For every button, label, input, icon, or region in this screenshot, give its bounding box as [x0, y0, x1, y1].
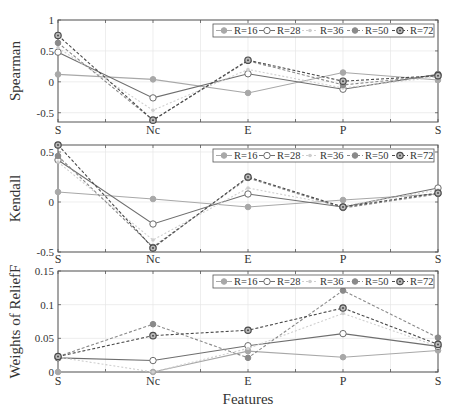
data-point — [221, 28, 227, 34]
legend-label: R=16 — [234, 150, 257, 161]
data-point — [55, 153, 61, 159]
data-point — [151, 370, 155, 374]
data-point — [221, 153, 227, 159]
data-point — [246, 186, 250, 190]
data-point — [340, 354, 346, 360]
x-tick-label: S — [435, 374, 442, 388]
data-point — [308, 280, 312, 284]
data-point-center — [437, 192, 439, 194]
data-point-center — [152, 335, 154, 337]
y-tick-label: -0.5 — [37, 107, 55, 119]
y-tick-label: 0 — [49, 196, 55, 208]
x-tick-label: P — [340, 123, 347, 137]
data-point-center — [399, 281, 401, 283]
legend: R=16R=28R=36R=50R=72 — [213, 24, 434, 37]
data-point — [55, 40, 61, 46]
x-tick-label: P — [340, 252, 347, 266]
x-axis-title: Features — [223, 391, 274, 407]
x-tick-label: E — [244, 374, 251, 388]
data-point — [55, 369, 61, 375]
data-point — [151, 238, 155, 242]
data-point-center — [342, 206, 344, 208]
data-point — [245, 204, 251, 210]
panel-relieff: 0.150.10.050SNcEPSWeights of ReliefFR=16… — [7, 265, 441, 388]
legend-label: R=50 — [365, 25, 388, 36]
x-tick-label: S — [55, 252, 62, 266]
data-point — [340, 197, 346, 203]
x-tick-label: Nc — [146, 123, 160, 137]
data-point — [341, 312, 345, 316]
x-tick-label: S — [55, 374, 62, 388]
x-tick-label: E — [244, 252, 251, 266]
y-tick-label: 0 — [49, 366, 55, 378]
data-point — [264, 278, 270, 284]
data-point — [150, 357, 156, 363]
data-point-center — [57, 144, 59, 146]
data-point — [245, 191, 251, 197]
data-point-center — [399, 30, 401, 32]
legend-label: R=28 — [277, 150, 300, 161]
data-point — [308, 29, 312, 33]
data-point — [245, 71, 251, 77]
data-point-center — [437, 75, 439, 77]
data-point — [150, 196, 156, 202]
panel-kendall: 0.50-0.5SNcEPSKendallR=16R=28R=36R=50R=7… — [7, 142, 441, 266]
legend-label: R=72 — [410, 150, 433, 161]
data-point — [150, 95, 156, 101]
x-tick-label: Nc — [146, 252, 160, 266]
chart-canvas: 10.50-0.5SNcEPSSpearmanR=16R=28R=36R=50R… — [0, 0, 458, 414]
y-tick-label: 0.5 — [40, 146, 54, 158]
data-point — [56, 160, 60, 164]
data-point-center — [57, 34, 59, 36]
data-point-center — [399, 155, 401, 157]
legend-label: R=36 — [320, 276, 343, 287]
y-tick-label: 0.1 — [40, 299, 54, 311]
data-point — [264, 27, 270, 33]
legend-label: R=16 — [234, 276, 257, 287]
legend-label: R=16 — [234, 25, 257, 36]
data-point — [56, 46, 60, 50]
y-tick-label: 0.05 — [35, 332, 55, 344]
data-point-center — [152, 247, 154, 249]
x-tick-label: S — [55, 123, 62, 137]
y-axis-title: Kendall — [7, 175, 23, 222]
figure: 10.50-0.5SNcEPSSpearmanR=16R=28R=36R=50R… — [0, 0, 458, 414]
y-tick-label: 0.5 — [40, 45, 54, 57]
legend: R=16R=28R=36R=50R=72 — [213, 149, 434, 162]
data-point-center — [437, 343, 439, 345]
data-point-center — [152, 119, 154, 121]
data-point — [340, 70, 346, 76]
data-point-center — [342, 80, 344, 82]
data-point — [150, 321, 156, 327]
legend-label: R=50 — [365, 276, 388, 287]
data-point — [55, 49, 61, 55]
y-tick-label: 0.15 — [35, 265, 55, 277]
legend-label: R=72 — [410, 276, 433, 287]
legend-label: R=28 — [277, 25, 300, 36]
y-axis-title: Weights of ReliefF — [7, 265, 23, 379]
data-point — [150, 77, 156, 83]
data-point — [352, 28, 358, 34]
data-point — [352, 153, 358, 159]
data-point — [246, 68, 250, 72]
legend: R=16R=28R=36R=50R=72 — [213, 275, 434, 288]
y-tick-label: -0.5 — [37, 246, 55, 258]
data-point — [352, 279, 358, 285]
legend-label: R=72 — [410, 25, 433, 36]
data-point — [340, 288, 346, 294]
data-point — [245, 90, 251, 96]
legend-label: R=50 — [365, 150, 388, 161]
data-point — [55, 72, 61, 78]
data-point — [246, 347, 250, 351]
data-point — [55, 189, 61, 195]
data-point — [340, 330, 346, 336]
data-point — [221, 279, 227, 285]
x-tick-label: P — [340, 374, 347, 388]
data-point-center — [57, 356, 59, 358]
data-point — [264, 152, 270, 158]
data-point — [245, 355, 251, 361]
x-tick-label: S — [435, 123, 442, 137]
legend-label: R=28 — [277, 276, 300, 287]
data-point — [151, 108, 155, 112]
data-point-center — [247, 176, 249, 178]
